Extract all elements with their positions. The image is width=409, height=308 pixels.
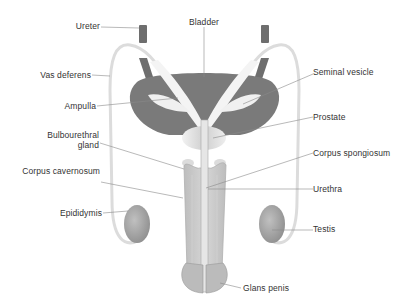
label-bulbourethral-gland: Bulbourethral gland (20, 130, 99, 150)
label-bladder: Bladder (189, 17, 219, 27)
label-corpus-cavernosum: Corpus cavernosum (10, 166, 100, 176)
label-testis: Testis (313, 224, 335, 234)
label-bulbourethral-line2: gland (78, 140, 99, 150)
label-corpus-spongiosum: Corpus spongiosum (313, 148, 390, 158)
anatomy-diagram: Ureter Bladder Vas deferens Seminal vesi… (0, 0, 409, 308)
label-ureter: Ureter (48, 21, 100, 31)
label-ampulla: Ampulla (45, 101, 96, 111)
label-urethra: Urethra (313, 184, 342, 194)
label-seminal-vesicle: Seminal vesicle (313, 67, 374, 77)
label-prostate: Prostate (313, 112, 345, 122)
label-epididymis: Epididymis (40, 208, 102, 218)
label-vas-deferens: Vas deferens (30, 70, 91, 80)
label-glans-penis: Glans penis (243, 283, 289, 293)
label-bulbourethral-line1: Bulbourethral (47, 130, 99, 140)
